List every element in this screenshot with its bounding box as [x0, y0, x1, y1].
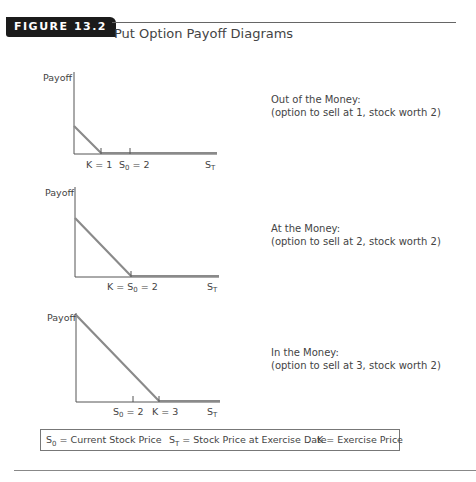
x-axis-label: ST	[207, 281, 218, 294]
x-axis-label: ST	[207, 406, 218, 419]
tick-s0: S0 = 2	[119, 159, 150, 172]
annotation-out-of-the-money: Out of the Money: (option to sell at 1, …	[271, 93, 441, 119]
legend: S0 = Current Stock Price ST = Stock Pric…	[40, 429, 400, 451]
tick-k: K = 1	[86, 159, 112, 170]
tick-k-s0: K = S0 = 2	[107, 281, 158, 294]
x-axis-label: ST	[205, 159, 216, 172]
payoff-line	[76, 315, 220, 401]
y-axis-label: Payoff	[45, 187, 75, 198]
tick-k: K = 3	[152, 406, 178, 417]
legend-k: K = Exercise Price	[317, 434, 403, 445]
annotation-in-the-money: In the Money: (option to sell at 3, stoc…	[271, 346, 441, 372]
legend-st: ST = Stock Price at Exercise Date	[169, 434, 327, 448]
payoff-line	[75, 218, 219, 276]
payoff-line	[74, 126, 217, 153]
bottom-rule	[14, 470, 476, 471]
annotation-at-the-money: At the Money: (option to sell at 2, stoc…	[271, 222, 441, 248]
chart-in-the-money: Payoff S0 = 2 K = 3 ST	[47, 312, 220, 419]
tick-s0: S0 = 2	[113, 406, 144, 419]
legend-s0: S0 = Current Stock Price	[46, 434, 162, 448]
y-axis-label: Payoff	[47, 312, 77, 323]
chart-out-of-the-money: Payoff K = 1 S0 = 2 ST	[43, 72, 217, 172]
chart-at-the-money: Payoff K = S0 = 2 ST	[45, 187, 219, 294]
y-axis-label: Payoff	[43, 72, 73, 83]
